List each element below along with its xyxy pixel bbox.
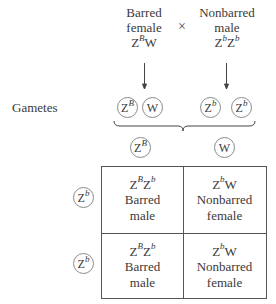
gametes-label: Gametes <box>12 100 57 116</box>
offspring-sex: male <box>102 208 183 224</box>
offspring-sex: male <box>102 275 183 291</box>
gamete-circle: Zb <box>231 97 252 118</box>
column-header-circle: W <box>214 137 235 158</box>
offspring-genotype: ZbW <box>184 177 265 193</box>
punnett-cell: ZbW Nonbarred female <box>184 234 265 300</box>
offspring-genotype: ZbW <box>184 244 265 260</box>
gamete-circle: W <box>142 97 163 118</box>
gamete-circle: Zb <box>200 97 221 118</box>
punnett-cell: ZBZb Barred male <box>102 234 183 300</box>
offspring-phenotype: Nonbarred <box>184 259 265 275</box>
offspring-phenotype: Barred <box>102 192 183 208</box>
down-arrow-icon <box>225 63 229 89</box>
gamete-circle: ZB <box>117 97 138 118</box>
brace-icon <box>114 121 255 131</box>
offspring-genotype: ZBZb <box>102 244 183 260</box>
offspring-phenotype: Nonbarred <box>184 192 265 208</box>
offspring-phenotype: Barred <box>102 259 183 275</box>
row-header-circle: Zb <box>73 253 94 274</box>
punnett-cell: ZBZb Barred male <box>102 167 183 233</box>
offspring-sex: female <box>184 275 265 291</box>
offspring-genotype: ZBZb <box>102 177 183 193</box>
punnett-square: ZBZb Barred male ZbW Nonbarred female ZB… <box>101 166 267 299</box>
punnett-cell: ZbW Nonbarred female <box>184 167 265 233</box>
column-header-circle: ZB <box>130 137 151 158</box>
down-arrow-icon <box>143 63 147 89</box>
offspring-sex: female <box>184 208 265 224</box>
row-header-circle: Zb <box>73 187 94 208</box>
